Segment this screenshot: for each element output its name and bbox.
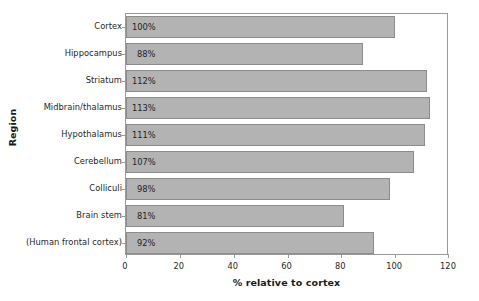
x-axis-tick-label: 40 [227, 261, 238, 271]
y-axis-tick-labels: CortexHippocampusStriatumMidbrain/thalam… [20, 13, 122, 255]
bar: 111% [126, 124, 425, 146]
x-axis-tick [448, 254, 449, 258]
plot-area: 100%88%112%113%111%107%98%81%92% [125, 13, 448, 255]
x-axis-tick-label: 100 [386, 261, 402, 271]
y-axis-tick [122, 189, 126, 190]
bar: 112% [126, 70, 427, 92]
y-axis-tick-label: Midbrain/thalamus [20, 102, 122, 112]
bar: 88% [126, 43, 363, 65]
x-axis-tick [234, 254, 235, 258]
x-axis-tick [395, 254, 396, 258]
bar: 92% [126, 232, 374, 254]
y-axis-tick-label: Cerebellum [20, 156, 122, 166]
y-axis-tick-label: Cortex [20, 21, 122, 31]
y-axis-tick [122, 135, 126, 136]
bar-value-label: 98% [137, 184, 155, 194]
y-axis-tick [122, 108, 126, 109]
y-axis-tick-label: Brain stem [20, 210, 122, 220]
bar: 107% [126, 151, 414, 173]
y-axis-tick [122, 54, 126, 55]
y-axis-tick [122, 27, 126, 28]
bar-value-label: 107% [132, 157, 156, 167]
bar-value-label: 81% [137, 211, 155, 221]
x-axis-tick [180, 254, 181, 258]
y-axis-tick-label: Colliculi [20, 183, 122, 193]
x-axis-tick-label: 60 [281, 261, 292, 271]
x-axis-tick-label: 20 [174, 261, 185, 271]
y-axis-tick-label: Hypothalamus [20, 129, 122, 139]
x-axis-tick-label: 80 [335, 261, 346, 271]
y-axis-tick [122, 243, 126, 244]
bar-chart: Region CortexHippocampusStriatumMidbrain… [0, 0, 479, 301]
bar-value-label: 92% [137, 238, 155, 248]
y-axis-tick-label: Striatum [20, 75, 122, 85]
x-axis-tick-label: 120 [440, 261, 456, 271]
bar-value-label: 88% [137, 49, 155, 59]
y-axis-tick-label: Hippocampus [20, 48, 122, 58]
bar: 98% [126, 178, 390, 200]
y-axis-tick [122, 81, 126, 82]
y-axis-tick [122, 216, 126, 217]
bar-value-label: 112% [132, 76, 156, 86]
y-axis-tick [122, 162, 126, 163]
bar-value-label: 113% [132, 103, 156, 113]
bar: 113% [126, 97, 430, 119]
x-axis-tick [288, 254, 289, 258]
y-axis-tick-label: (Human frontal cortex) [20, 237, 122, 247]
x-axis-title: % relative to cortex [125, 277, 448, 288]
x-axis-tick-label: 0 [122, 261, 127, 271]
x-axis-tick [341, 254, 342, 258]
bar: 100% [126, 16, 395, 38]
bar-value-label: 111% [132, 130, 156, 140]
y-axis-title-label: Region [8, 109, 19, 147]
x-axis-tick [126, 254, 127, 258]
bars-layer: 100%88%112%113%111%107%98%81%92% [126, 14, 447, 254]
bar: 81% [126, 205, 344, 227]
x-axis-tick-labels: 020406080100120 [125, 261, 448, 275]
bar-value-label: 100% [132, 22, 156, 32]
